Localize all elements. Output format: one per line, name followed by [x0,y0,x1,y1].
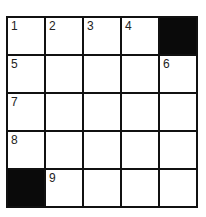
clue-number: 5 [11,58,18,70]
crossword-cell[interactable] [46,56,84,94]
clue-number: 4 [125,20,132,32]
crossword-cell[interactable] [84,132,122,170]
clue-number: 7 [11,96,18,108]
black-cell [160,18,198,56]
clue-number: 3 [87,20,94,32]
crossword-cell[interactable]: 2 [46,18,84,56]
crossword-grid: 123456789 [6,16,198,208]
crossword-cell[interactable]: 8 [8,132,46,170]
crossword-cell[interactable] [160,94,198,132]
clue-number: 8 [11,134,18,146]
black-cell [8,170,46,208]
clue-number: 1 [11,20,18,32]
crossword-cell[interactable] [122,132,160,170]
clue-number: 2 [49,20,56,32]
crossword-cell[interactable]: 6 [160,56,198,94]
crossword-cell[interactable] [122,56,160,94]
crossword-cell[interactable]: 7 [8,94,46,132]
clue-number: 6 [163,58,170,70]
crossword-cell[interactable]: 5 [8,56,46,94]
crossword-cell[interactable]: 1 [8,18,46,56]
crossword-cell[interactable] [84,94,122,132]
crossword-cell[interactable] [46,94,84,132]
crossword-cell[interactable] [122,94,160,132]
crossword-cell[interactable] [160,170,198,208]
crossword-cell[interactable] [122,170,160,208]
crossword-cell[interactable] [84,170,122,208]
crossword-cell[interactable]: 4 [122,18,160,56]
crossword-cell[interactable]: 3 [84,18,122,56]
clue-number: 9 [49,172,56,184]
crossword-cell[interactable] [160,132,198,170]
crossword-cell[interactable] [84,56,122,94]
crossword-cell[interactable]: 9 [46,170,84,208]
crossword-cell[interactable] [46,132,84,170]
